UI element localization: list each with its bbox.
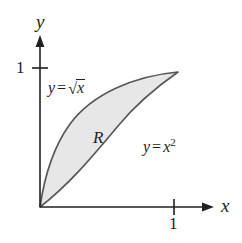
upper-curve-equals: =: [55, 79, 68, 96]
lower-curve-exponent: 2: [170, 136, 176, 148]
figure-canvas: [0, 0, 242, 243]
y-axis-tick-label-1: 1: [16, 59, 25, 76]
lower-curve-label: y=x2: [143, 137, 176, 155]
radical-sign-glyph: √: [68, 80, 77, 97]
y-axis-arrowhead: [36, 35, 45, 47]
upper-curve-label: y=√x: [48, 79, 85, 97]
x-axis-tick-label-1: 1: [169, 215, 178, 232]
region-label: R: [93, 129, 103, 146]
square-root-icon: √x: [68, 79, 85, 97]
lower-curve-equals: =: [150, 138, 163, 155]
x-axis-label: x: [221, 196, 229, 215]
region-between-curves-figure: y x 1 1 y=√x y=x2 R: [0, 0, 242, 243]
y-axis-label: y: [36, 12, 44, 31]
radicand: x: [76, 79, 85, 97]
x-axis-arrowhead: [202, 203, 214, 212]
